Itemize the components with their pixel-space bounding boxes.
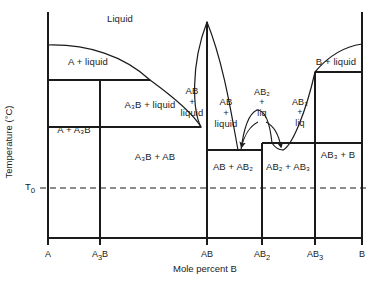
region-label-liquid: Liquid bbox=[107, 14, 133, 25]
tick-text: AB bbox=[254, 249, 266, 259]
x-tick-label-B: B bbox=[359, 249, 365, 262]
x-axis-ticks bbox=[48, 238, 362, 245]
region-label-a3b-ab: A₃B + AB bbox=[135, 152, 175, 163]
tick-tail: B bbox=[102, 249, 108, 259]
x-tick-label-AB: AB bbox=[201, 249, 213, 262]
liquidus-AB-right bbox=[207, 22, 238, 150]
x-tick-label-A3B: A3B bbox=[92, 249, 108, 262]
t0-axis-label: T0 bbox=[25, 181, 35, 195]
x-axis-title: Mole percent B bbox=[173, 263, 237, 274]
region-label-ab-ab2: AB + AB₂ bbox=[213, 162, 253, 173]
region-label-a-a3b: A + A₃B bbox=[57, 125, 90, 136]
region-label-ab3-b: AB₃ + B bbox=[321, 150, 355, 161]
region-label-ab2-liq: AB₂ + liq bbox=[254, 87, 270, 118]
region-label-b-liquid: B + liquid bbox=[316, 57, 356, 68]
region-label-ab3-liq: AB₃ + liq bbox=[292, 97, 308, 128]
tick-text: B bbox=[359, 249, 365, 259]
region-label-ab2-ab3: AB₂ + AB₃ bbox=[266, 162, 310, 173]
tick-text: AB bbox=[201, 249, 213, 259]
region-label-a-liquid: A + liquid bbox=[68, 57, 108, 68]
phase-diagram-figure: Temperature (°C) Mole percent B T0 A A3B… bbox=[0, 0, 386, 285]
phase-diagram-canvas bbox=[0, 0, 386, 285]
compound-lines bbox=[100, 22, 315, 238]
tick-sub: 3 bbox=[319, 253, 323, 262]
y-axis-title: Temperature (°C) bbox=[3, 106, 14, 179]
x-tick-label-AB2: AB2 bbox=[254, 249, 270, 262]
t0-label-sub: 0 bbox=[31, 186, 35, 195]
tick-text: A bbox=[45, 249, 51, 259]
region-label-a3b-liquid: A₃B + liquid bbox=[125, 100, 176, 111]
x-tick-label-AB3: AB3 bbox=[307, 249, 323, 262]
x-tick-label-A: A bbox=[45, 249, 51, 262]
region-label-ab-liquid-right: AB + liquid bbox=[215, 97, 238, 130]
tick-sub: 2 bbox=[266, 253, 270, 262]
tick-text: AB bbox=[307, 249, 319, 259]
region-label-ab-liquid-left: AB + liquid bbox=[181, 86, 204, 119]
